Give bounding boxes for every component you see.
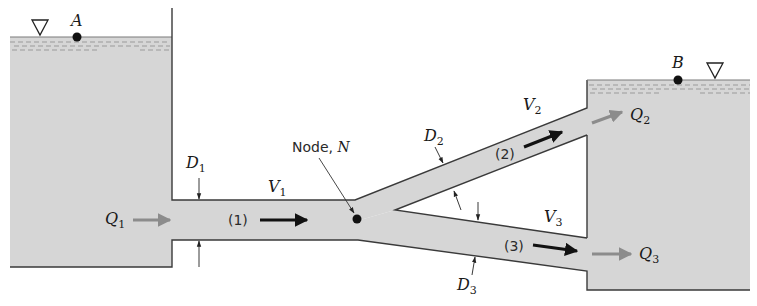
pipe-2-water	[355, 108, 587, 220]
right-reservoir-water	[587, 80, 750, 290]
d2-arrow-bottom	[454, 191, 461, 210]
pipe-network-diagram: A B Node, N D1 V1 (1) Q1 D2 V2 (2) Q2 V3…	[0, 0, 757, 306]
pipe-1-diameter-label: D1	[185, 153, 206, 175]
point-a-label: A	[69, 11, 83, 30]
left-reservoir-water	[10, 37, 172, 267]
node-label: Node, N	[292, 139, 350, 155]
point-b-marker	[674, 76, 683, 85]
free-surface-triangle-icon-right	[707, 63, 723, 78]
d2-arrow-top	[435, 147, 443, 163]
pipe-3-velocity-label: V3	[544, 207, 563, 229]
free-surface-triangle-icon-left	[32, 20, 48, 35]
pipe-3-diameter-label: D3	[456, 275, 477, 297]
pipe-2-diameter-label: D2	[423, 126, 444, 148]
node-n-marker	[353, 215, 362, 224]
d3-arrow-bottom	[472, 257, 475, 275]
pipe-2-velocity-label: V2	[523, 95, 542, 117]
pipe-3-id: (3)	[504, 238, 524, 254]
pipe-2-id: (2)	[495, 146, 515, 162]
pipe-1-velocity-label: V1	[268, 177, 287, 199]
point-b-label: B	[671, 53, 684, 72]
pipe-1-id: (1)	[228, 212, 248, 228]
point-a-marker	[73, 33, 82, 42]
